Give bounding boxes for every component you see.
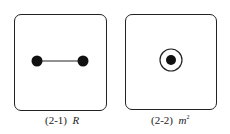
caption-symbol: R: [73, 114, 80, 126]
caption-2-2: (2-2) m2: [151, 114, 189, 126]
node-left: [32, 56, 43, 67]
node-center: [166, 55, 176, 65]
caption-superscript: 2: [186, 114, 189, 120]
caption-label: (2-1): [45, 114, 67, 126]
graph-R: [32, 56, 89, 67]
caption-2-1: (2-1) R: [45, 114, 79, 126]
caption-label: (2-2): [151, 114, 173, 126]
graph-m2: [160, 49, 182, 71]
node-right: [78, 56, 89, 67]
diagram-graphics: [0, 0, 230, 134]
